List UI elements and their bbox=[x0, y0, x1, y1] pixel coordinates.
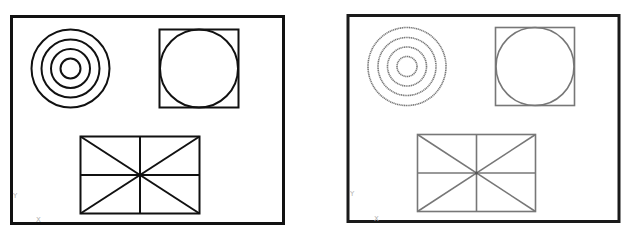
square-with-inscribed-circle bbox=[496, 28, 575, 106]
panel-left: Y X bbox=[12, 17, 284, 225]
y-axis-label: Y bbox=[12, 192, 18, 200]
inscribed-circle bbox=[496, 28, 574, 106]
ucs-axis-indicator: Y X bbox=[349, 190, 379, 223]
x-axis-label: X bbox=[36, 216, 41, 224]
frame-border bbox=[348, 16, 619, 222]
frame-border bbox=[12, 17, 284, 224]
inscribed-circle bbox=[160, 30, 238, 108]
y-axis-label: Y bbox=[349, 190, 355, 198]
drawing-canvas: Y X Y X bbox=[0, 0, 628, 242]
x-axis-label: X bbox=[374, 215, 379, 223]
circle-ring-3 bbox=[388, 47, 427, 86]
circle-ring-3 bbox=[51, 49, 90, 88]
rectangle-with-cross-lines bbox=[81, 137, 200, 214]
square-with-inscribed-circle bbox=[160, 30, 239, 108]
circle-ring-4 bbox=[61, 59, 81, 79]
center-point bbox=[475, 171, 478, 174]
rectangle-with-cross-lines bbox=[418, 135, 536, 212]
concentric-circles bbox=[368, 28, 446, 106]
circle-ring-1 bbox=[368, 28, 446, 106]
circle-ring-4 bbox=[397, 57, 417, 77]
ucs-axis-indicator: Y X bbox=[12, 192, 41, 224]
circle-ring-1 bbox=[32, 30, 110, 108]
concentric-circles bbox=[32, 30, 110, 108]
panel-right: Y X bbox=[348, 16, 619, 224]
